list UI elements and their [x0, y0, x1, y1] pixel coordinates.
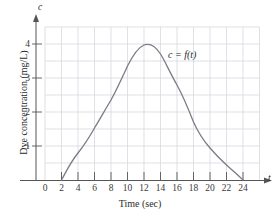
- x-axis-title: Time (sec): [0, 198, 280, 209]
- x-tick-label-24: 24: [236, 183, 250, 193]
- y-axis-tick-marks: [32, 44, 42, 146]
- chart-axes: [20, 14, 272, 184]
- x-tick-label-10: 10: [121, 183, 135, 193]
- x-tick-label-2: 2: [55, 183, 69, 193]
- x-tick-label-20: 20: [203, 183, 217, 193]
- y-axis-title: Dye concentration (mg/L): [18, 28, 29, 178]
- x-tick-label-16: 16: [170, 183, 184, 193]
- x-tick-label-0: 0: [38, 183, 52, 193]
- x-tick-label-8: 8: [104, 183, 118, 193]
- x-tick-label-18: 18: [187, 183, 201, 193]
- dye-concentration-chart: 0 2 4 6 8 10 12 14 16 18 20 22 24 4 3 2 …: [0, 0, 280, 217]
- x-tick-label-4: 4: [71, 183, 85, 193]
- horizontal-gridlines: [45, 27, 260, 163]
- x-axis-tick-marks: [62, 172, 244, 180]
- x-tick-label-6: 6: [88, 183, 102, 193]
- x-tick-label-12: 12: [137, 183, 151, 193]
- vertical-gridlines: [45, 27, 260, 180]
- y-axis-variable-label: c: [38, 2, 42, 12]
- x-tick-label-14: 14: [154, 183, 168, 193]
- x-tick-label-22: 22: [220, 183, 234, 193]
- curve-equation-annotation: c = f(t): [168, 49, 196, 60]
- x-axis-variable-label: t: [268, 173, 271, 183]
